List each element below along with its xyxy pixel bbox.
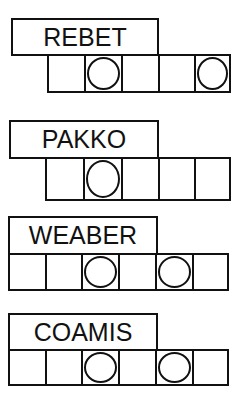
answer-cells — [8, 253, 229, 291]
answer-cell[interactable] — [45, 351, 81, 384]
scrambled-word-box: COAMIS — [8, 313, 158, 351]
answer-cell-circled[interactable] — [194, 56, 229, 91]
scrambled-word: REBET — [43, 25, 126, 50]
scrambled-word-box: PAKKO — [9, 120, 159, 159]
scrambled-word: PAKKO — [42, 127, 126, 152]
answer-cell[interactable] — [8, 255, 45, 289]
answer-cell[interactable] — [158, 56, 194, 91]
answer-cell-circled[interactable] — [155, 255, 192, 289]
circle-marker-icon — [84, 352, 117, 383]
answer-cell[interactable] — [192, 351, 227, 384]
answer-cell[interactable] — [118, 351, 155, 384]
circle-marker-icon — [86, 160, 120, 198]
answer-cell[interactable] — [45, 159, 83, 199]
answer-cells — [8, 349, 229, 386]
answer-cell[interactable] — [158, 159, 194, 199]
answer-cell-circled[interactable] — [155, 351, 192, 384]
answer-cell[interactable] — [45, 255, 81, 289]
answer-cells — [47, 54, 231, 93]
answer-cell-circled[interactable] — [81, 351, 118, 384]
circle-marker-icon — [84, 256, 117, 288]
answer-cell-circled[interactable] — [83, 159, 121, 199]
scrambled-word: WEABER — [29, 223, 137, 248]
answer-cell[interactable] — [47, 56, 84, 91]
circle-marker-icon — [158, 256, 191, 288]
circle-marker-icon — [197, 57, 228, 90]
answer-cell[interactable] — [121, 56, 158, 91]
answer-cells — [45, 157, 231, 201]
scrambled-word-box: REBET — [11, 18, 159, 56]
scrambled-word-box: WEABER — [8, 216, 158, 255]
answer-cell[interactable] — [192, 255, 227, 289]
scrambled-word: COAMIS — [34, 320, 133, 345]
circle-marker-icon — [87, 57, 120, 90]
answer-cell[interactable] — [194, 159, 229, 199]
circle-marker-icon — [158, 352, 191, 383]
answer-cell-circled[interactable] — [84, 56, 121, 91]
answer-cell[interactable] — [8, 351, 45, 384]
answer-cell-circled[interactable] — [81, 255, 118, 289]
answer-cell[interactable] — [121, 159, 158, 199]
answer-cell[interactable] — [118, 255, 155, 289]
